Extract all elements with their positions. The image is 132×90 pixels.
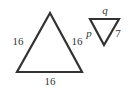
similar-triangles-diagram: 16 16 16 q p 7 xyxy=(0,0,132,90)
large-bottom-side-label: 16 xyxy=(45,75,57,87)
large-left-side-label: 16 xyxy=(13,35,25,47)
small-top-side-label: q xyxy=(102,4,108,16)
large-right-side-label: 16 xyxy=(72,35,84,47)
small-right-side-label: 7 xyxy=(115,27,121,39)
small-left-side-label: p xyxy=(85,27,92,39)
